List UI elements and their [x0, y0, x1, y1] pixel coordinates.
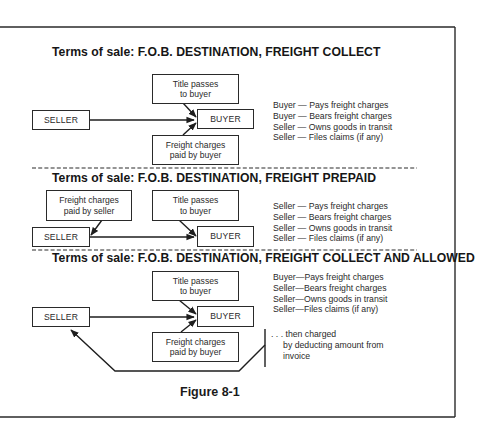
freight-charges-label: Freight charges paid by buyer: [166, 140, 226, 161]
seller-box: SELLER: [32, 227, 90, 247]
title-passes-box: Title passes to buyer: [152, 190, 239, 221]
freight-charges-box: Freight charges paid by seller: [46, 190, 132, 221]
figure-canvas: Terms of sale: F.O.B. DESTINATION, FREIG…: [0, 0, 480, 439]
section-1-arrows: [89, 103, 196, 135]
responsibility-item: Seller—Files claims (if any): [273, 304, 387, 315]
responsibility-item: Buyer — Pays freight charges: [273, 100, 392, 111]
section-1-title: Terms of sale: F.O.B. DESTINATION, FREIG…: [52, 45, 380, 59]
responsibility-item: Seller—Owns goods in transit: [273, 294, 387, 305]
note-line: by deducting amount from: [271, 340, 384, 351]
seller-label: SELLER: [44, 115, 78, 126]
note-line: invoice: [271, 351, 384, 362]
buyer-label: BUYER: [210, 311, 241, 322]
responsibility-item: Buyer — Bears freight charges: [273, 111, 392, 122]
title-passes-label: Title passes to buyer: [173, 195, 219, 216]
title-passes-label: Title passes to buyer: [173, 79, 219, 100]
seller-label: SELLER: [44, 312, 78, 323]
title-passes-box: Title passes to buyer: [152, 74, 239, 104]
responsibilities-list: Seller — Pays freight charges Seller — B…: [273, 201, 392, 244]
title-passes-box: Title passes to buyer: [152, 271, 239, 301]
section-2-arrows: [89, 220, 196, 237]
buyer-label: BUYER: [210, 114, 241, 125]
seller-label: SELLER: [44, 232, 78, 243]
title-passes-label: Title passes to buyer: [173, 276, 219, 297]
responsibilities-list: Buyer—Pays freight charges Seller—Bears …: [273, 272, 387, 315]
figure-caption: Figure 8-1: [180, 385, 240, 399]
section-2-title: Terms of sale: F.O.B. DESTINATION, FREIG…: [52, 171, 376, 185]
responsibility-item: Seller — Owns goods in transit: [273, 223, 392, 234]
responsibility-item: Seller — Pays freight charges: [273, 201, 392, 212]
responsibility-item: Seller — Owns goods in transit: [273, 122, 392, 133]
freight-charges-label: Freight charges paid by seller: [59, 195, 119, 216]
freight-charges-box: Freight charges paid by buyer: [152, 332, 239, 362]
responsibility-item: Seller — Files claims (if any): [273, 132, 392, 143]
section-3-title: Terms of sale: F.O.B. DESTINATION, FREIG…: [52, 251, 475, 265]
responsibilities-list: Buyer — Pays freight charges Buyer — Bea…: [273, 100, 392, 143]
seller-box: SELLER: [32, 307, 90, 327]
responsibility-item: Seller — Bears freight charges: [273, 212, 392, 223]
deduction-note: . . . then charged by deducting amount f…: [271, 329, 384, 361]
buyer-box: BUYER: [197, 306, 254, 327]
responsibility-item: Seller — Files claims (if any): [273, 233, 392, 244]
freight-charges-label: Freight charges paid by buyer: [166, 337, 226, 358]
seller-box: SELLER: [32, 110, 90, 130]
buyer-label: BUYER: [210, 231, 241, 242]
responsibility-item: Seller—Bears freight charges: [273, 283, 387, 294]
freight-charges-box: Freight charges paid by buyer: [152, 135, 239, 165]
responsibility-item: Buyer—Pays freight charges: [273, 272, 387, 283]
buyer-box: BUYER: [197, 226, 254, 247]
buyer-box: BUYER: [197, 109, 254, 129]
note-line: . . . then charged: [271, 329, 384, 340]
